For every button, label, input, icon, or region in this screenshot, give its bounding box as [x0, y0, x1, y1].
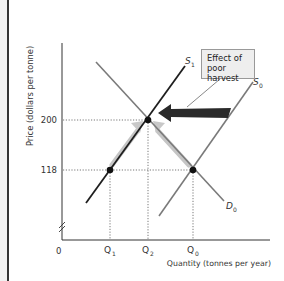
annotation-line-2: poor harvest	[207, 63, 254, 83]
svg-text:1: 1	[191, 61, 195, 68]
annotation-line-1: Effect of	[207, 53, 254, 63]
svg-text:0: 0	[195, 250, 199, 257]
x-axis-title: Quantity (tonnes per year)	[167, 259, 271, 268]
svg-text:0: 0	[233, 206, 237, 213]
guide-lines	[63, 120, 193, 240]
callout-leader-line	[187, 79, 220, 107]
svg-text:Q: Q	[104, 245, 111, 255]
supply-shift-arrow-icon	[158, 104, 231, 122]
movement-highlights	[112, 130, 189, 165]
point-q1	[107, 167, 114, 174]
x-tick-q1: Q 1	[104, 245, 116, 257]
x-tick-q2: Q 2	[142, 245, 154, 257]
equilibrium-point-new	[145, 117, 152, 124]
equilibrium-point-initial	[190, 167, 197, 174]
y-tick-200: 200	[41, 115, 57, 125]
svg-text:Q: Q	[142, 245, 149, 255]
demand-curve-d0	[96, 62, 224, 201]
svg-text:Q: Q	[187, 245, 194, 255]
supply-demand-chart: Price (dollars per tonne) 200 118 0 Q 1 …	[0, 0, 284, 281]
y-axis-title: Price (dollars per tonne)	[25, 46, 35, 146]
annotation-callout: Effect of poor harvest	[201, 49, 255, 79]
y-tick-118: 118	[41, 165, 57, 175]
x-tick-q0: Q 0	[187, 245, 199, 257]
chart-frame: Price (dollars per tonne) 200 118 0 Q 1 …	[0, 0, 284, 281]
svg-text:1: 1	[112, 250, 116, 257]
movement-along-d0	[158, 131, 189, 165]
label-d0: D 0	[226, 201, 237, 213]
svg-text:0: 0	[259, 82, 263, 89]
origin-label: 0	[56, 246, 61, 256]
label-s1: S 1	[185, 56, 195, 68]
supply-curve-s1	[86, 66, 185, 203]
svg-text:D: D	[226, 201, 233, 211]
svg-text:2: 2	[150, 250, 154, 257]
